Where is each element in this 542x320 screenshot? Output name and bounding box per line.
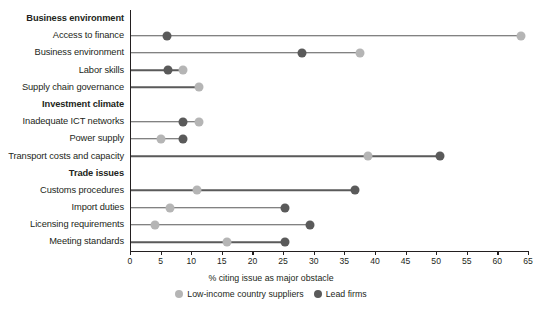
datapoint-lead-firms[interactable] (163, 66, 172, 75)
row-connector (130, 69, 183, 71)
datapoint-lead-firms[interactable] (179, 117, 188, 126)
row-label: Inadequate ICT networks (0, 113, 124, 130)
x-axis-tick (314, 251, 315, 255)
datapoint-low-income[interactable] (193, 186, 202, 195)
datapoint-low-income[interactable] (179, 66, 188, 75)
row-label: Labor skills (0, 62, 124, 79)
row-label: Customs procedures (0, 182, 124, 199)
chart-container: Business environmentAccess to financeBus… (0, 0, 542, 320)
x-axis-tick-label: 40 (370, 256, 380, 266)
row-label: Import duties (0, 199, 124, 216)
group-label: Trade issues (0, 165, 124, 182)
legend-swatch-icon (314, 290, 322, 298)
row-connector (130, 207, 285, 209)
datapoint-low-income[interactable] (195, 83, 204, 92)
row-label: Meeting standards (0, 233, 124, 250)
row-track (130, 199, 530, 216)
group-label: Investment climate (0, 96, 124, 113)
row-label: Transport costs and capacity (0, 148, 124, 165)
x-axis-tick (344, 251, 345, 255)
chart-rows: Business environmentAccess to financeBus… (0, 10, 542, 251)
x-axis-tick (375, 251, 376, 255)
row-track (130, 62, 530, 79)
row-connector (130, 35, 521, 37)
chart-row: Power supply (0, 130, 542, 147)
row-track (130, 113, 530, 130)
datapoint-low-income[interactable] (364, 152, 373, 161)
x-axis-tick (130, 251, 131, 255)
x-axis-tick (528, 251, 529, 255)
datapoint-lead-firms[interactable] (280, 203, 289, 212)
x-axis-tick (191, 251, 192, 255)
x-axis-tick (222, 251, 223, 255)
group-label: Business environment (0, 10, 124, 27)
legend-item[interactable]: Low-income country suppliers (175, 289, 303, 299)
y-axis-line (130, 10, 131, 251)
row-connector (130, 155, 440, 157)
datapoint-low-income[interactable] (195, 117, 204, 126)
x-axis-tick-label: 20 (248, 256, 258, 266)
chart-row: Inadequate ICT networks (0, 113, 542, 130)
x-axis-tick-label: 30 (309, 256, 319, 266)
datapoint-low-income[interactable] (165, 203, 174, 212)
chart-group-header: Investment climate (0, 96, 542, 113)
datapoint-low-income[interactable] (222, 238, 231, 247)
x-axis-tick (497, 251, 498, 255)
datapoint-low-income[interactable] (517, 31, 526, 40)
x-axis-tick (252, 251, 253, 255)
datapoint-low-income[interactable] (156, 134, 165, 143)
row-track (130, 182, 530, 199)
x-axis-tick (406, 251, 407, 255)
legend-label: Lead firms (326, 289, 367, 299)
row-track (130, 233, 530, 250)
datapoint-low-income[interactable] (151, 220, 160, 229)
legend-swatch-icon (175, 290, 183, 298)
row-connector (130, 190, 355, 192)
x-axis-tick (283, 251, 284, 255)
x-axis-tick-label: 65 (523, 256, 533, 266)
x-axis-tick-label: 15 (217, 256, 227, 266)
chart-row: Meeting standards (0, 233, 542, 250)
datapoint-low-income[interactable] (356, 48, 365, 57)
x-axis-tick-label: 45 (401, 256, 411, 266)
chart-row: Customs procedures (0, 182, 542, 199)
x-axis-title: % citing issue as major obstacle (0, 273, 542, 283)
datapoint-lead-firms[interactable] (280, 238, 289, 247)
datapoint-lead-firms[interactable] (306, 220, 315, 229)
datapoint-lead-firms[interactable] (179, 134, 188, 143)
row-track (130, 130, 530, 147)
row-label: Licensing requirements (0, 216, 124, 233)
legend-label: Low-income country suppliers (187, 289, 303, 299)
row-connector (130, 241, 285, 243)
row-track (130, 148, 530, 165)
x-axis-tick-label: 60 (493, 256, 503, 266)
x-axis-tick-label: 25 (278, 256, 288, 266)
x-axis-tick (436, 251, 437, 255)
datapoint-lead-firms[interactable] (351, 186, 360, 195)
row-track (130, 44, 530, 61)
chart-legend: Low-income country suppliersLead firms (0, 289, 542, 299)
row-label: Business environment (0, 44, 124, 61)
datapoint-lead-firms[interactable] (162, 31, 171, 40)
chart-row: Access to finance (0, 27, 542, 44)
row-connector (130, 87, 199, 89)
x-axis-tick-label: 10 (186, 256, 196, 266)
x-axis-tick (467, 251, 468, 255)
x-axis: 05101520253035404550556065 (130, 251, 529, 252)
x-axis-tick-label: 5 (158, 256, 163, 266)
chart-row: Transport costs and capacity (0, 148, 542, 165)
row-track (130, 79, 530, 96)
row-track (130, 216, 530, 233)
row-track (130, 27, 530, 44)
legend-item[interactable]: Lead firms (314, 289, 367, 299)
row-connector (130, 52, 360, 54)
row-label: Access to finance (0, 27, 124, 44)
datapoint-lead-firms[interactable] (435, 152, 444, 161)
x-axis-tick-label: 55 (462, 256, 472, 266)
chart-row: Import duties (0, 199, 542, 216)
x-axis-tick-label: 50 (431, 256, 441, 266)
chart-row: Business environment (0, 44, 542, 61)
datapoint-lead-firms[interactable] (298, 48, 307, 57)
row-label: Power supply (0, 130, 124, 147)
x-axis-tick (161, 251, 162, 255)
